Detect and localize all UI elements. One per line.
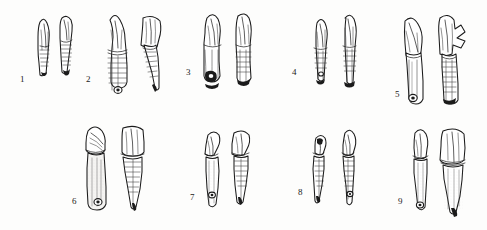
- specimen-9-view-b: [440, 129, 465, 217]
- specimen-3-view-a: [204, 15, 221, 89]
- specimen-9-view-a: [413, 130, 428, 210]
- figure-label-2: 2: [86, 74, 91, 84]
- specimen-3-view-b: [236, 14, 251, 86]
- figure-label-7: 7: [190, 192, 195, 202]
- figure-label-6: 6: [72, 196, 77, 206]
- figure-label-5: 5: [395, 89, 400, 99]
- specimen-plate: .ol{fill:#ffffff;stroke:#1b1b1b;stroke-w…: [0, 0, 487, 230]
- figure-label-8: 8: [298, 187, 303, 197]
- figure-label-9: 9: [398, 196, 403, 206]
- figure-label-1: 1: [20, 74, 25, 84]
- figure-label-4: 4: [292, 67, 297, 77]
- specimen-6-view-a: [86, 127, 106, 210]
- specimen-7-view-a: [205, 132, 220, 207]
- figure-label-3: 3: [186, 67, 191, 77]
